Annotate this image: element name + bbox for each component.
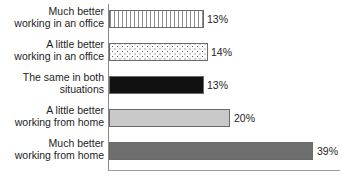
bar-value-label: 14% bbox=[211, 44, 232, 60]
category-label: Much better working in an office bbox=[0, 2, 104, 30]
bar-value-label: 20% bbox=[234, 110, 255, 126]
category-label: A little better working in an office bbox=[0, 35, 104, 63]
chart-row: A little better working from home 20% bbox=[0, 101, 342, 134]
bar-value-label: 13% bbox=[207, 77, 228, 93]
category-label: The same in both situations bbox=[0, 68, 104, 96]
bar-same-both-situations bbox=[109, 76, 204, 94]
category-label: A little better working from home bbox=[0, 101, 104, 129]
bar-value-label: 39% bbox=[317, 143, 338, 159]
chart-row: The same in both situations 13% bbox=[0, 68, 342, 101]
chart-row: Much better working in an office 13% bbox=[0, 2, 342, 35]
bar-chart: Much better working in an office 13% A l… bbox=[0, 0, 342, 177]
bar-value-label: 13% bbox=[207, 11, 228, 27]
bar-much-better-home bbox=[109, 142, 313, 160]
category-label: Much better working from home bbox=[0, 134, 104, 162]
bar-little-better-office bbox=[109, 43, 208, 61]
bar-much-better-office bbox=[109, 10, 204, 28]
chart-row: A little better working in an office 14% bbox=[0, 35, 342, 68]
category-baseline bbox=[108, 170, 340, 171]
bar-little-better-home bbox=[109, 109, 230, 127]
chart-row: Much better working from home 39% bbox=[0, 134, 342, 167]
